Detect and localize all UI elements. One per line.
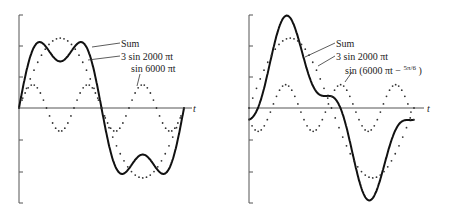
left-fundamental-label: 3 sin 2000 πt — [121, 51, 173, 62]
right-harmonic-label: sin (6000 πt − 5π/6 ) — [345, 63, 422, 76]
left-t-axis-label: t — [193, 103, 196, 114]
right-t-axis-label: t — [427, 103, 430, 114]
left-sum-label: Sum — [121, 38, 139, 49]
left-harmonic-label: sin 6000 πt — [131, 63, 176, 74]
harmonic-text: sin (6000 πt − — [345, 65, 403, 76]
right-sum-label: Sum — [336, 38, 354, 49]
right-fundamental-label: 3 sin 2000 πt — [336, 51, 388, 62]
harmonic-close: ) — [416, 65, 422, 76]
waveform-plots — [0, 0, 450, 214]
phase-text: 5π/6 — [403, 64, 415, 72]
